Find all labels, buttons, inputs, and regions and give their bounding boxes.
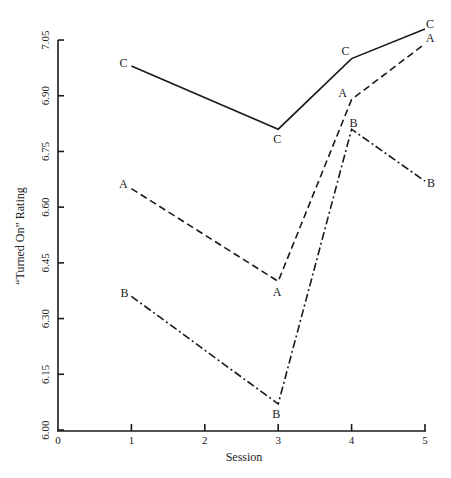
point-label: B [427, 176, 435, 190]
point-label: A [426, 31, 435, 45]
y-tick-label: 6.60 [39, 197, 51, 217]
point-label: C [426, 17, 434, 31]
x-tick-label: 0 [55, 434, 61, 446]
point-label: A [119, 177, 128, 191]
y-axis-title: “Turned On” Rating [13, 187, 27, 285]
series-line [131, 129, 425, 404]
x-tick-label: 2 [202, 434, 208, 446]
y-tick-label: 6.30 [39, 308, 51, 328]
point-label: C [273, 132, 281, 146]
x-tick-label: 1 [129, 434, 135, 446]
plot-area: CCCCAAAABBBB [119, 17, 435, 421]
series-line [131, 44, 425, 282]
y-tick-label: 6.45 [39, 253, 51, 273]
series-B: BBBB [120, 116, 435, 421]
y-tick-label: 6.00 [39, 420, 51, 440]
point-label: C [119, 56, 127, 70]
x-tick-label: 4 [349, 434, 355, 446]
point-label: B [350, 116, 358, 130]
point-label: B [272, 407, 280, 421]
series-A: AAAA [119, 31, 435, 299]
y-tick-label: 7.05 [39, 30, 51, 50]
y-tick-label: 6.15 [39, 364, 51, 384]
point-label: A [338, 86, 347, 100]
series-line [131, 29, 425, 129]
line-chart: 6.006.156.306.456.606.756.907.05 012345 … [0, 0, 451, 478]
x-axis: 012345 [55, 424, 428, 446]
y-tick-label: 6.75 [39, 141, 51, 161]
x-axis-title: Session [226, 450, 263, 464]
y-axis: 6.006.156.306.456.606.756.907.05 [39, 30, 64, 440]
point-label: C [342, 44, 350, 58]
series-C: CCCC [119, 17, 434, 146]
point-label: B [120, 286, 128, 300]
x-tick-label: 5 [422, 434, 428, 446]
y-tick-label: 6.90 [39, 86, 51, 106]
point-label: A [273, 285, 282, 299]
x-tick-label: 3 [275, 434, 281, 446]
